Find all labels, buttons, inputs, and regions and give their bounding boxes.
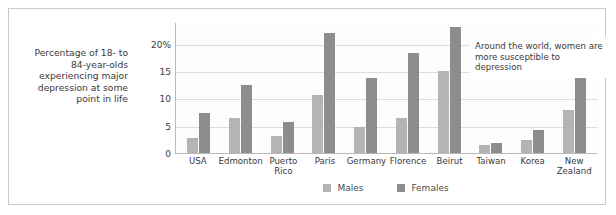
y-axis-tick-label: 5 [137, 122, 171, 132]
bar-females [450, 27, 461, 153]
x-axis-tick-label: New Zealand [553, 156, 595, 177]
bar-females [241, 85, 252, 153]
legend-label-females: Females [411, 183, 448, 193]
bar-group [261, 23, 303, 153]
bar-males [271, 136, 282, 153]
bar-group [220, 23, 262, 153]
chart-legend: Males Females [175, 183, 597, 193]
legend-item-females: Females [397, 183, 448, 193]
bar-group [178, 23, 220, 153]
legend-swatch-females-icon [397, 184, 405, 192]
x-axis-tick-label: Paris [304, 156, 346, 177]
y-axis-tick-label: 0 [137, 149, 171, 159]
bar-females [575, 67, 586, 153]
bar-males [229, 118, 240, 153]
bar-females [491, 143, 502, 153]
x-axis-tick-label: Taiwan [470, 156, 512, 177]
x-axis-tick-label: Edmonton [219, 156, 263, 177]
bar-males [187, 138, 198, 153]
chart-frame: Percentage of 18- to 84-year-olds experi… [8, 8, 606, 205]
bar-group [387, 23, 429, 153]
bar-males [479, 145, 490, 153]
bar-males [521, 140, 532, 153]
chart-caption: Percentage of 18- to 84-year-olds experi… [23, 47, 128, 105]
x-axis-labels: USAEdmontonPuerto RicoParisGermanyFloren… [175, 156, 597, 177]
y-axis-labels: 05101520% [137, 23, 171, 154]
bar-chart: 05101520% USAEdmontonPuerto RicoParisGer… [137, 23, 599, 203]
bar-females [324, 33, 335, 153]
bar-males [396, 118, 407, 153]
legend-swatch-males-icon [323, 184, 331, 192]
y-axis-tick-label: 20% [137, 40, 171, 50]
bar-females [408, 53, 419, 153]
bar-females [366, 78, 377, 153]
bar-males [354, 127, 365, 153]
x-axis-tick-label: USA [177, 156, 219, 177]
bar-group [345, 23, 387, 153]
bar-males [563, 110, 574, 153]
bar-males [438, 71, 449, 153]
legend-item-males: Males [323, 183, 363, 193]
y-axis-tick-label: 10 [137, 94, 171, 104]
x-axis-tick-label: Florence [387, 156, 429, 177]
chart-annotation: Around the world, women are more suscept… [469, 37, 609, 78]
bar-group [303, 23, 345, 153]
x-axis-tick-label: Germany [346, 156, 388, 177]
legend-label-males: Males [337, 183, 363, 193]
bar-males [312, 95, 323, 153]
x-axis-tick-label: Korea [512, 156, 554, 177]
x-axis-tick-label: Beirut [429, 156, 471, 177]
bar-females [283, 122, 294, 153]
bar-group [428, 23, 470, 153]
bar-females [199, 113, 210, 153]
x-axis-tick-label: Puerto Rico [263, 156, 305, 177]
bar-females [533, 130, 544, 153]
y-axis-tick-label: 15 [137, 67, 171, 77]
